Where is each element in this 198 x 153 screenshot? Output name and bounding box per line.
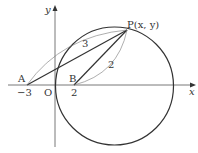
- point-A-tick: −3: [17, 87, 32, 98]
- y-axis-arrow-icon: [53, 5, 58, 11]
- origin-label: O: [44, 87, 52, 98]
- point-P-label: P(x, y): [127, 19, 159, 30]
- point-B-tick: 2: [71, 87, 77, 98]
- y-axis-label: y: [44, 4, 51, 15]
- point-B-label: B: [69, 73, 76, 84]
- apollonius-circle-diagram: y x O A −3 B 2 P(x, y) 3 2: [0, 0, 198, 153]
- distance-PB-label: 2: [108, 59, 114, 70]
- distance-PA-label: 3: [82, 38, 88, 49]
- segment-PA: [27, 30, 127, 85]
- point-A-label: A: [17, 73, 26, 84]
- x-axis-label: x: [189, 86, 195, 97]
